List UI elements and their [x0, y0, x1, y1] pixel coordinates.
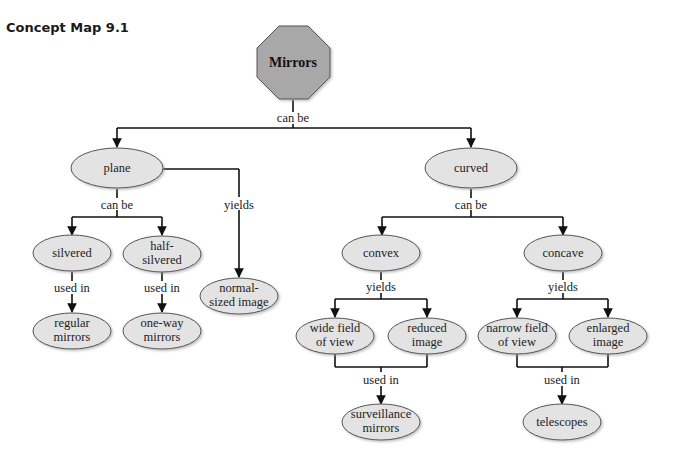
node-label-wide-field-line1: wide field — [310, 321, 361, 335]
node-label-surveillance-line1: surveillance — [351, 407, 412, 421]
node-label-narrow-field-line2: of view — [498, 335, 536, 349]
node-telescopes: telescopes — [523, 404, 601, 440]
node-label-wide-field-line2: of view — [316, 335, 354, 349]
node-wide-field-of-view: wide field of view — [296, 318, 374, 354]
node-label-half-silvered-line1: half- — [150, 239, 174, 253]
link-label-curved-can-be: can be — [455, 198, 488, 212]
node-label-enlarged-image-line1: enlarged — [587, 321, 631, 335]
node-reduced-image: reduced image — [388, 318, 466, 354]
link-label-half-silvered-used-in: used in — [144, 281, 181, 295]
node-label-one-way-mirrors-line1: one-way — [140, 316, 184, 330]
link-label-mirrors-can-be: can be — [277, 111, 310, 125]
node-label-regular-mirrors-line1: regular — [54, 316, 90, 330]
node-regular-mirrors: regular mirrors — [33, 313, 111, 349]
node-label-regular-mirrors-line2: mirrors — [54, 330, 91, 344]
node-curved: curved — [425, 148, 517, 188]
node-label-curved: curved — [454, 161, 489, 175]
node-label-normal-sized-line2: sized image — [209, 295, 269, 309]
node-silvered: silvered — [33, 235, 111, 271]
node-label-concave: concave — [543, 246, 584, 260]
node-label-plane: plane — [103, 161, 131, 175]
concept-map-diagram: can be can be yields used in used in can… — [0, 0, 674, 461]
link-label-silvered-used-in: used in — [54, 281, 91, 295]
edge-concave-yields — [517, 272, 608, 317]
node-enlarged-image: enlarged image — [569, 318, 647, 354]
node-label-one-way-mirrors-line2: mirrors — [144, 330, 181, 344]
edge-curved-can-be — [382, 189, 563, 235]
link-label-concave-used-in: used in — [544, 373, 581, 387]
edge-plane-can-be — [72, 189, 162, 235]
link-label-plane-can-be: can be — [101, 198, 134, 212]
node-convex: convex — [342, 235, 420, 271]
node-label-enlarged-image-line2: image — [593, 335, 624, 349]
node-label-half-silvered-line2: silvered — [142, 253, 182, 267]
edge-convex-yields — [335, 272, 427, 317]
link-label-convex-used-in: used in — [363, 373, 400, 387]
link-label-plane-yields: yields — [224, 198, 254, 212]
node-normal-sized-image: normal- sized image — [200, 278, 278, 314]
node-label-narrow-field-line1: narrow field — [486, 321, 548, 335]
node-label-convex: convex — [363, 246, 400, 260]
node-label-normal-sized-line1: normal- — [219, 281, 259, 295]
node-narrow-field-of-view: narrow field of view — [478, 318, 556, 354]
node-label-telescopes: telescopes — [536, 415, 588, 429]
node-one-way-mirrors: one-way mirrors — [123, 313, 201, 349]
node-mirrors: Mirrors — [257, 26, 330, 99]
node-concave: concave — [524, 235, 602, 271]
node-half-silvered: half- silvered — [123, 236, 201, 272]
node-label-silvered: silvered — [52, 246, 92, 260]
node-label-reduced-image-line1: reduced — [407, 321, 447, 335]
node-label-surveillance-line2: mirrors — [363, 421, 400, 435]
node-label-reduced-image-line2: image — [412, 335, 443, 349]
node-label-mirrors: Mirrors — [269, 55, 317, 70]
node-surveillance-mirrors: surveillance mirrors — [342, 404, 420, 440]
link-label-concave-yields: yields — [548, 280, 578, 294]
link-label-convex-yields: yields — [366, 280, 396, 294]
node-plane: plane — [71, 148, 163, 188]
